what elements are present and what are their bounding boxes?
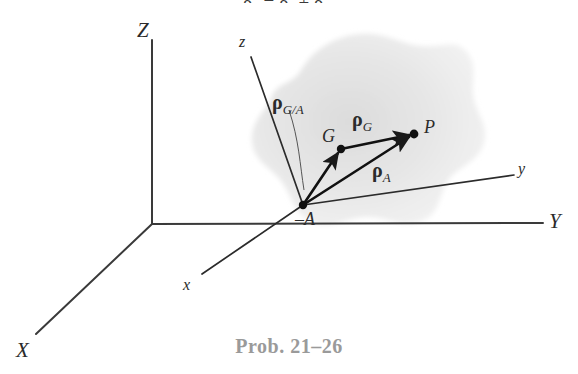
vector-label-rho-G: ρG <box>352 108 372 131</box>
figure-caption: Prob. 21–26 <box>0 335 578 358</box>
point-label-P: P <box>424 117 435 138</box>
rho-subscript-G: G <box>363 119 372 134</box>
point-dot-A <box>299 201 307 209</box>
rho-symbol-G-over-A: ρ <box>272 91 283 113</box>
diagram-svg <box>0 0 578 374</box>
rho-subscript-A: A <box>383 170 391 185</box>
point-label-A: –A <box>295 209 315 230</box>
axis-Y-line <box>152 223 543 224</box>
point-dot-P <box>410 130 419 139</box>
point-dot-G <box>337 145 345 153</box>
figure-canvas: ρ₀ = ρₐ + ρₘ <box>0 0 578 374</box>
axis-label-z: z <box>239 33 245 51</box>
point-label-G: G <box>322 126 335 147</box>
vector-label-rho-A: ρA <box>372 159 391 182</box>
rho-symbol-G: ρ <box>352 108 363 130</box>
axis-label-y: y <box>518 160 525 178</box>
axis-label-Z: Z <box>137 18 149 43</box>
axis-X-line <box>36 224 152 334</box>
axis-label-Y: Y <box>549 209 561 234</box>
axis-x-line <box>202 205 303 274</box>
axis-label-x: x <box>183 276 190 294</box>
vector-label-rho-G-over-A: ρG/A <box>272 91 304 114</box>
rho-subscript-G-over-A: G/A <box>283 102 304 117</box>
rho-symbol-A: ρ <box>372 159 383 181</box>
